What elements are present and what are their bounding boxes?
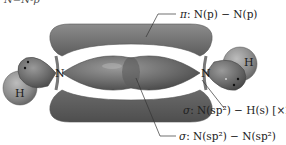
atom-h-left: H [15, 88, 25, 99]
pi-symbol: π [180, 8, 187, 20]
sigma-nh-label: σ: N(sp²) − H(s) [×2] [183, 105, 286, 116]
pi-orbital-upper-lobe [50, 24, 212, 56]
atom-h-right: H [244, 57, 254, 68]
orbital-diagram: N=N-p [0, 0, 286, 145]
atom-n-right: N [201, 68, 211, 79]
pi-bond-label: π: N(p) − N(p) [180, 9, 257, 20]
orbital-illustration [0, 0, 286, 145]
atom-n-left: N [55, 68, 65, 79]
sigma-nn-text: : N(sp²) − N(sp²) [186, 130, 276, 142]
pi-bond-text: : N(p) − N(p) [187, 8, 258, 20]
sigma-nh-text: : N(sp²) − H(s) [×2] [190, 104, 286, 116]
sigma-nn-label: σ: N(sp²) − N(sp²) [179, 131, 276, 142]
